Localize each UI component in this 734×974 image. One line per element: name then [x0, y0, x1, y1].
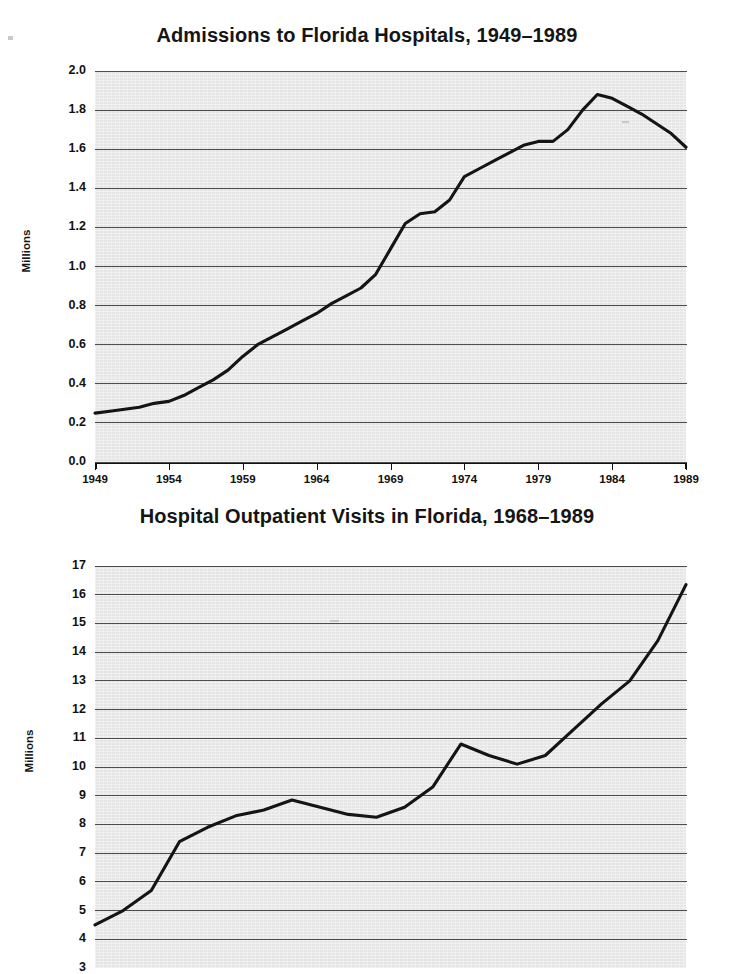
scan-speck [330, 620, 339, 622]
scan-speck [8, 36, 13, 40]
scan-speck [622, 121, 629, 123]
series-path [95, 585, 686, 925]
